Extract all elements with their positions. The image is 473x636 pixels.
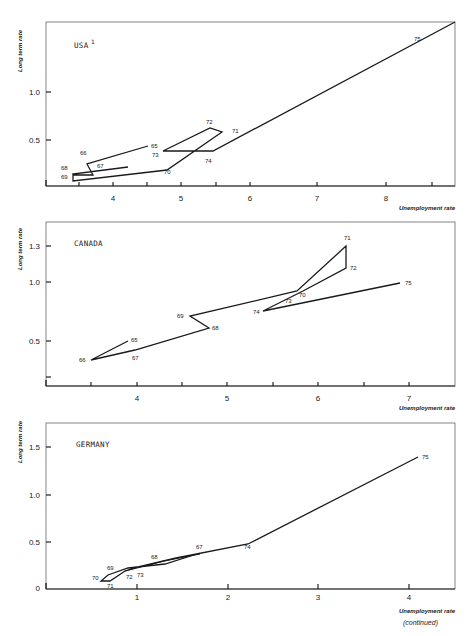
- germany-series-line-return: [125, 554, 200, 571]
- svg-text:71: 71: [107, 583, 114, 589]
- germany-x-ticks: [137, 584, 409, 589]
- canada-frame: [46, 222, 455, 386]
- germany-y-tick-1.0: 1.0: [29, 491, 41, 500]
- germany-x-tick-4: 4: [407, 593, 412, 602]
- svg-text:75: 75: [422, 454, 429, 460]
- svg-text:65: 65: [131, 337, 138, 343]
- germany-title: GERMANY: [76, 440, 110, 449]
- svg-text:73: 73: [137, 572, 144, 578]
- usa-title: USA: [74, 41, 89, 50]
- canada-x-tick-6: 6: [316, 394, 321, 403]
- canada-x-tick-5: 5: [225, 394, 230, 403]
- usa-frame: [46, 22, 455, 186]
- germany-x-axis-title: Unemployment rate: [399, 608, 456, 614]
- svg-text:67: 67: [97, 163, 104, 169]
- svg-text:67: 67: [132, 355, 139, 361]
- usa-x-tick-6: 6: [248, 194, 253, 203]
- germany-x-tick-1: 1: [135, 593, 140, 602]
- svg-text:73: 73: [152, 152, 159, 158]
- germany-y-tick-0.5: 0.5: [29, 538, 41, 547]
- germany-series-line: [101, 457, 418, 581]
- canada-point-labels: 65 66 67 68 69 70 71 72 73 74 75: [79, 235, 412, 363]
- canada-x-axis-title: Unemployment rate: [399, 405, 456, 411]
- svg-text:70: 70: [164, 169, 171, 175]
- usa-y-tick-1.0: 1.0: [29, 88, 41, 97]
- usa-x-tick-4: 4: [111, 194, 116, 203]
- svg-text:70: 70: [299, 292, 306, 298]
- germany-x-tick-2: 2: [226, 593, 231, 602]
- usa-x-tick-8: 8: [384, 194, 389, 203]
- germany-y-tick-0: 0: [36, 584, 41, 593]
- usa-point-labels: 65 66 67 68 69 70 71 72 73 74 75: [61, 36, 421, 180]
- svg-text:72: 72: [350, 265, 357, 271]
- svg-text:71: 71: [232, 128, 239, 134]
- svg-text:66: 66: [80, 150, 87, 156]
- canada-title: CANADA: [74, 239, 103, 248]
- usa-x-axis-title: Unemployment rate: [399, 205, 456, 211]
- svg-text:69: 69: [177, 313, 184, 319]
- svg-text:69: 69: [107, 565, 114, 571]
- svg-text:73: 73: [285, 298, 292, 304]
- usa-chart: 4 5 6 7 8 1.0 0.5 Long term rate Unemplo…: [17, 22, 456, 211]
- svg-text:65: 65: [151, 143, 158, 149]
- canada-chart: 4 5 6 7 1.3 1.0 0.5 Long term rate Unemp…: [17, 222, 456, 411]
- svg-text:75: 75: [405, 280, 412, 286]
- svg-text:69: 69: [61, 174, 68, 180]
- germany-point-labels: 67 68 69 70 71 72 73 74 75: [92, 454, 429, 589]
- canada-x-ticks: [91, 382, 409, 386]
- usa-x-ticks: [79, 182, 432, 186]
- canada-y-tick-1.0: 1.0: [29, 278, 41, 287]
- germany-x-tick-3: 3: [316, 593, 321, 602]
- usa-x-tick-5: 5: [179, 194, 184, 203]
- canada-y-tick-0.5: 0.5: [29, 337, 41, 346]
- germany-chart: 1 2 3 4 1.5 1.0 0.5 0 Long term rate Une…: [17, 420, 456, 627]
- svg-text:72: 72: [206, 119, 213, 125]
- svg-text:74: 74: [244, 544, 251, 550]
- germany-y-tick-1.5: 1.5: [29, 443, 41, 452]
- canada-y-tick-1.3: 1.3: [29, 242, 41, 251]
- canada-x-tick-4: 4: [135, 394, 140, 403]
- svg-text:74: 74: [253, 309, 260, 315]
- usa-y-tick-0.5: 0.5: [29, 136, 41, 145]
- usa-title-footnote: 1: [91, 38, 95, 45]
- svg-text:68: 68: [151, 554, 158, 560]
- svg-text:74: 74: [205, 158, 212, 164]
- svg-text:72: 72: [126, 574, 133, 580]
- germany-y-axis-title: Long term rate: [17, 420, 23, 463]
- usa-path: [73, 22, 455, 181]
- usa-y-axis-title: Long term rate: [17, 29, 23, 72]
- svg-text:68: 68: [61, 165, 68, 171]
- canada-x-tick-7: 7: [407, 394, 412, 403]
- svg-text:70: 70: [92, 575, 99, 581]
- svg-text:66: 66: [79, 357, 86, 363]
- usa-x-tick-7: 7: [315, 194, 320, 203]
- svg-text:75: 75: [414, 36, 421, 42]
- svg-text:68: 68: [212, 325, 219, 331]
- svg-text:71: 71: [344, 235, 351, 241]
- continued-note: (continued): [403, 619, 438, 627]
- canada-y-axis-title: Long term rate: [17, 227, 23, 270]
- svg-text:67: 67: [196, 544, 203, 550]
- figure: 4 5 6 7 8 1.0 0.5 Long term rate Unemplo…: [0, 0, 473, 636]
